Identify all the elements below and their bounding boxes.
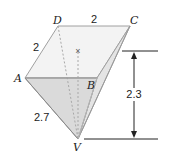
measure-dc: 2	[91, 13, 97, 25]
vertex-label-v: V	[73, 141, 82, 154]
measure-height: 2.3	[126, 88, 141, 100]
vertex-label-d: D	[52, 14, 62, 27]
vertex-label-b: B	[86, 79, 95, 92]
pyramid-figure: × D C A B V 2 2 2.7 2.3	[0, 0, 169, 154]
vertex-label-a: A	[13, 72, 22, 85]
center-mark: ×	[75, 46, 80, 56]
arrow-up-icon	[131, 52, 137, 59]
measure-ad: 2	[33, 41, 39, 53]
measure-av: 2.7	[34, 111, 49, 123]
arrow-down-icon	[131, 131, 137, 138]
vertex-label-c: C	[130, 14, 139, 27]
